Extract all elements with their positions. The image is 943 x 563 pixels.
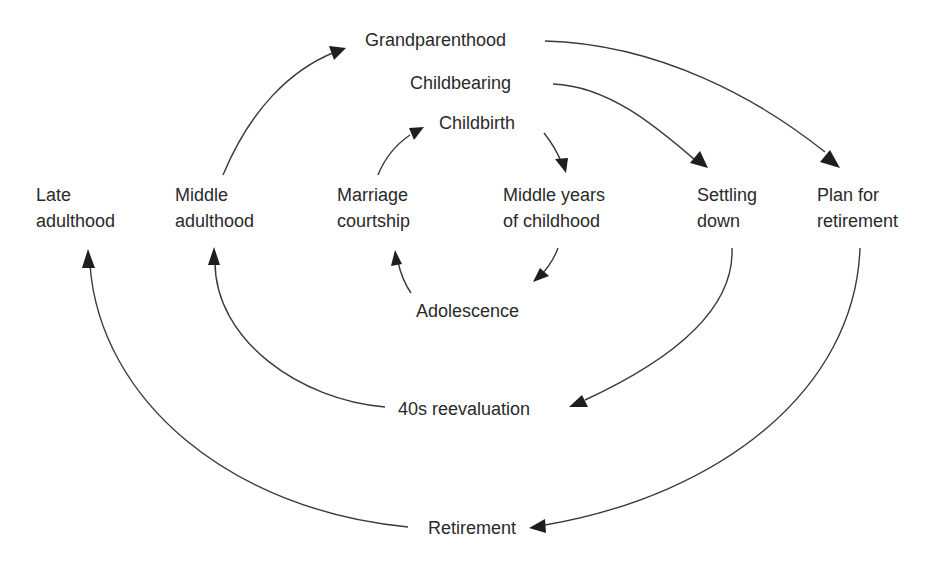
node-late-adulthood: Late adulthood <box>36 182 115 234</box>
node-label: Late <box>36 182 115 208</box>
node-label: Retirement <box>428 515 516 541</box>
edge-40s-to-middle-adulthood <box>215 262 385 407</box>
node-label: Childbirth <box>439 110 515 136</box>
arrowhead-icon <box>533 268 549 282</box>
node-40s-reevaluation: 40s reevaluation <box>398 396 530 422</box>
node-plan-for-retirement: Plan for retirement <box>817 182 898 234</box>
edge-middle-adulthood-to-grandparenthood <box>223 52 335 175</box>
node-childbirth: Childbirth <box>439 110 515 136</box>
node-label: of childhood <box>503 208 605 234</box>
node-adolescence: Adolescence <box>416 298 519 324</box>
node-label: adulthood <box>36 208 115 234</box>
node-childbearing: Childbearing <box>410 70 511 96</box>
arrowhead-icon <box>555 158 568 173</box>
node-label: adulthood <box>175 208 254 234</box>
edge-retirement-to-late-adulthood <box>90 265 408 527</box>
edge-grandparenthood-to-plan-retirement <box>545 41 825 152</box>
node-label: Middle <box>175 182 254 208</box>
arrowhead-icon <box>529 519 546 533</box>
arrowhead-icon <box>820 150 840 168</box>
edge-adolescence-to-marriage <box>398 262 411 293</box>
node-label: Adolescence <box>416 298 519 324</box>
node-label: 40s reevaluation <box>398 396 530 422</box>
arrowhead-icon <box>391 250 402 266</box>
arrowhead-icon <box>208 247 220 265</box>
node-label: Middle years <box>503 182 605 208</box>
node-label: Plan for <box>817 182 898 208</box>
node-label: Childbearing <box>410 70 511 96</box>
arrowhead-icon <box>329 46 346 60</box>
node-label: down <box>697 208 757 234</box>
edge-marriage-to-childbirth <box>378 135 410 175</box>
arrowhead-icon <box>690 151 708 168</box>
node-label: Marriage <box>337 182 410 208</box>
edge-settling-to-40s <box>585 248 732 400</box>
arrowhead-icon <box>409 127 424 140</box>
node-retirement: Retirement <box>428 515 516 541</box>
node-settling-down: Settling down <box>697 182 757 234</box>
edge-childbearing-to-settling <box>553 84 695 160</box>
node-middle-years-of-childhood: Middle years of childhood <box>503 182 605 234</box>
edge-plan-retirement-to-retirement <box>545 248 860 525</box>
arrowhead-icon <box>82 249 95 268</box>
node-label: Settling <box>697 182 757 208</box>
node-marriage-courtship: Marriage courtship <box>337 182 410 234</box>
node-label: courtship <box>337 208 410 234</box>
node-middle-adulthood: Middle adulthood <box>175 182 254 234</box>
node-label: retirement <box>817 208 898 234</box>
node-label: Grandparenthood <box>365 27 506 53</box>
node-grandparenthood: Grandparenthood <box>365 27 506 53</box>
life-cycle-diagram: Grandparenthood Childbearing Childbirth … <box>0 0 943 563</box>
arrowhead-icon <box>569 395 588 407</box>
